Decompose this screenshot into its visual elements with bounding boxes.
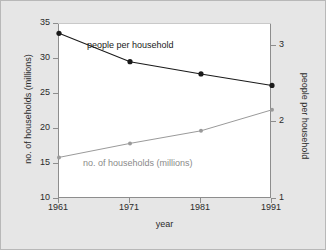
data-point xyxy=(128,141,132,145)
x-axis-tick-label: 1981 xyxy=(180,203,220,212)
y-axis-left-tick-label: 35 xyxy=(22,18,50,27)
y-axis-right-tick-label: 1 xyxy=(279,193,299,202)
x-axis-tick-label: 1991 xyxy=(251,203,291,212)
y-axis-left-tick xyxy=(53,58,58,59)
y-axis-left-tick xyxy=(53,93,58,94)
data-point xyxy=(198,71,203,76)
y-axis-left-tick xyxy=(53,128,58,129)
y-axis-left-tick xyxy=(53,163,58,164)
y-axis-right-tick-label: 3 xyxy=(279,40,299,49)
y-axis-right-tick xyxy=(271,121,276,122)
annotation-no-of-households: no. of households (millions) xyxy=(83,159,193,168)
plot-top-edge xyxy=(58,23,271,24)
x-axis-tick-label: 1961 xyxy=(38,203,78,212)
y-axis-left-tick xyxy=(53,23,58,24)
y-axis-right-tick xyxy=(271,45,276,46)
data-point xyxy=(57,155,61,159)
annotation-people-per-household: people per household xyxy=(87,41,174,50)
data-point xyxy=(269,83,274,88)
y-axis-left-tick-label: 10 xyxy=(22,193,50,202)
x-axis-label: year xyxy=(58,219,271,229)
x-axis-tick-label: 1971 xyxy=(109,203,149,212)
data-point xyxy=(199,129,203,133)
data-point xyxy=(56,31,61,36)
data-point xyxy=(127,59,132,64)
line-no-of-households xyxy=(59,110,272,158)
chart-figure: 1015202530351231961197119811991 no. of h… xyxy=(0,0,326,250)
y-axis-left-label: no. of households (millions) xyxy=(23,29,33,189)
y-axis-right-label: people per household xyxy=(300,36,310,196)
y-axis-right-tick-label: 2 xyxy=(279,116,299,125)
data-point xyxy=(270,108,274,112)
